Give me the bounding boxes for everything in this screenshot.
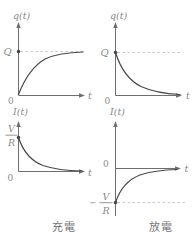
y-axis-label: I(t) (12, 106, 28, 117)
x-axis-label: t (88, 90, 92, 101)
rc-circuit-figure: q(t) t 0 Q q(t) t 0 Q (0, 0, 195, 239)
axis-level-dot (17, 50, 20, 53)
x-axis-label: t (185, 163, 189, 174)
start-level-denominator: R (101, 205, 109, 216)
y-axis-label: q(t) (13, 10, 31, 21)
discharging-charge-curve (116, 53, 181, 95)
asymptote-level-label: Q (4, 46, 12, 57)
panel-discharge-i: I(t) t 0 V R (91, 106, 189, 217)
y-axis-label: q(t) (110, 10, 128, 21)
start-level-numerator: V (8, 123, 16, 134)
origin-label: 0 (103, 159, 109, 169)
panel-charge-q: q(t) t 0 Q (4, 10, 93, 106)
x-axis-label: t (186, 90, 190, 101)
origin-label: 0 (8, 96, 14, 106)
charging-current-curve (19, 138, 83, 172)
y-axis-arrowhead-icon (113, 22, 117, 28)
x-axis-arrowhead-icon (79, 93, 85, 97)
start-level-numerator: V (103, 191, 111, 202)
panel-discharge-q: q(t) t 0 Q (101, 10, 191, 106)
origin-label: 0 (8, 173, 14, 183)
y-axis-arrowhead-icon (16, 22, 20, 28)
figure-canvas: q(t) t 0 Q q(t) t 0 Q (0, 0, 195, 239)
y-axis-arrowhead-icon (113, 121, 117, 127)
charging-charge-curve (19, 52, 84, 95)
discharging-current-curve (116, 170, 178, 203)
origin-label: 0 (105, 96, 111, 106)
panel-charge-i: I(t) t 0 V R (6, 106, 93, 184)
start-level-label: Q (101, 47, 109, 58)
y-axis-label: I(t) (109, 106, 125, 117)
start-level-denominator: R (7, 137, 15, 148)
x-axis-label: t (88, 167, 92, 178)
caption-discharging: 放電 (149, 220, 173, 234)
caption-charging: 充電 (52, 220, 76, 234)
y-axis-arrowhead-icon (16, 121, 20, 127)
